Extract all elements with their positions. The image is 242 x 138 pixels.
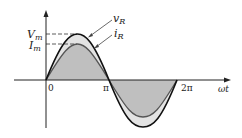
vr-leader-arrow-icon <box>88 33 93 38</box>
vr-leader-line <box>90 20 112 36</box>
ir-leader-arrow-icon <box>94 44 99 49</box>
vr-label: vR <box>113 12 125 26</box>
x-axis-label: ωt <box>218 84 229 94</box>
tick-0-label: 0 <box>48 83 54 93</box>
waveform-diagram: Vm Im vR iR 0 π 2π ωt <box>0 0 242 138</box>
x-axis-arrow-icon <box>224 78 231 83</box>
y-axis-arrow-icon <box>44 10 49 17</box>
ir-leader-line <box>96 35 112 47</box>
ir-label: iR <box>114 27 124 41</box>
tick-2pi-label: 2π <box>181 83 193 93</box>
tick-pi-label: π <box>103 83 109 93</box>
